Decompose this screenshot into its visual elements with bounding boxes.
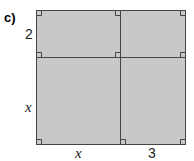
area-model-diagram [0, 0, 194, 161]
square-diagram [37, 11, 186, 145]
region-x-by-x [37, 58, 121, 145]
dimension-label-3: 3 [148, 146, 156, 160]
dimension-label-x-vertical: x [25, 100, 32, 115]
region-x-by-2 [37, 11, 121, 58]
region-3-by-2 [121, 11, 186, 58]
dimension-label-2: 2 [25, 27, 33, 41]
region-3-by-x [121, 58, 186, 145]
dimension-label-x-horizontal: x [75, 146, 82, 161]
